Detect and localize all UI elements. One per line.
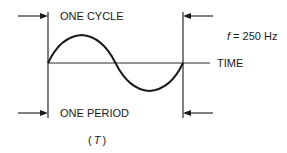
time-axis-label: TIME <box>217 57 243 69</box>
bottom-right-arrow <box>183 110 213 116</box>
period-symbol: T <box>94 134 102 146</box>
one-period-label: ONE PERIOD <box>60 107 129 119</box>
top-right-arrow <box>183 13 213 19</box>
frequency-label: f = 250 Hz <box>227 30 277 42</box>
frequency-value: = 250 Hz <box>230 30 277 42</box>
period-symbol-label: (T) <box>88 134 106 146</box>
one-cycle-label: ONE CYCLE <box>60 10 124 22</box>
sine-wave-period-diagram: ONE CYCLE f = 250 Hz TIME ONE PERIOD (T) <box>0 0 287 153</box>
period-paren-open: ( <box>88 134 92 146</box>
period-paren-close: ) <box>102 134 106 146</box>
top-left-arrow <box>18 13 48 19</box>
bottom-left-arrow <box>18 110 48 116</box>
